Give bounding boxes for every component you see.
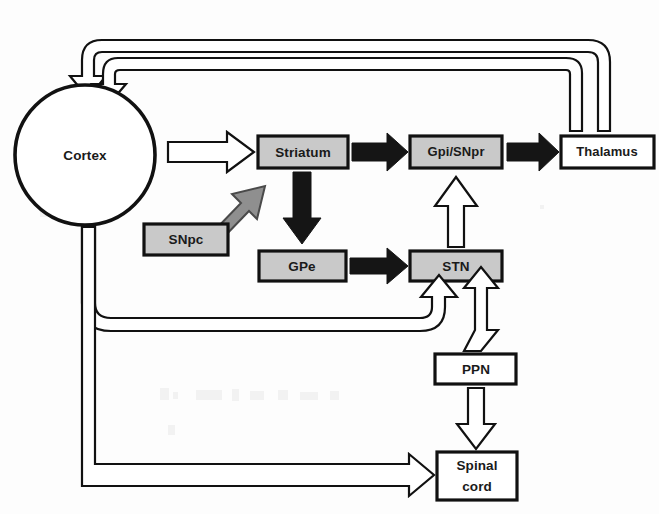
node-ppn-label: PPN <box>462 362 490 377</box>
node-stn-label: STN <box>442 259 469 274</box>
node-gpi-snpr-label: Gpi/SNpr <box>427 144 484 159</box>
node-ppn[interactable]: PPN <box>435 354 516 384</box>
node-snpc-label: SNpc <box>169 232 204 247</box>
basal-ganglia-diagram: Cortex SNpc Striatum Gpi/SNpr <box>0 0 659 514</box>
node-spinal-cord-label-line2: cord <box>462 479 492 494</box>
edge-thalamus-to-cortex <box>70 40 610 131</box>
edge-striatum-to-gpe <box>283 172 321 244</box>
node-gpe[interactable]: GPe <box>259 251 346 281</box>
diagram-canvas: Cortex SNpc Striatum Gpi/SNpr <box>0 0 659 514</box>
edge-gpe-to-stn <box>350 248 408 284</box>
edge-gpi-to-thalamus <box>507 133 559 171</box>
node-snpc[interactable]: SNpc <box>144 224 228 255</box>
node-cortex[interactable]: Cortex <box>15 85 155 225</box>
edge-ppn-to-spinal-cord <box>457 388 495 449</box>
node-spinal-cord[interactable]: Spinal cord <box>437 452 517 500</box>
edge-gpi-to-cortex <box>92 58 582 131</box>
node-spinal-cord-label-line1: Spinal <box>456 458 497 473</box>
node-gpi-snpr[interactable]: Gpi/SNpr <box>410 136 502 168</box>
edge-striatum-to-gpi <box>352 133 408 171</box>
node-cortex-label: Cortex <box>63 148 107 163</box>
node-thalamus[interactable]: Thalamus <box>561 136 654 168</box>
node-gpe-label: GPe <box>288 259 316 274</box>
edge-cortex-to-striatum <box>168 132 254 172</box>
node-striatum[interactable]: Striatum <box>258 136 348 168</box>
node-striatum-label: Striatum <box>275 145 331 160</box>
node-thalamus-label: Thalamus <box>576 144 637 159</box>
edge-stn-to-gpi <box>435 177 477 247</box>
